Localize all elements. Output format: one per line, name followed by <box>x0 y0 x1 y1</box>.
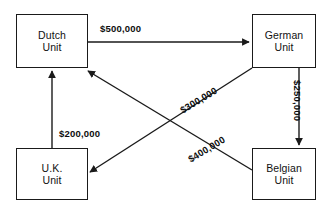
node-dutch-unit[interactable]: Dutch Unit <box>16 14 88 68</box>
node-belgian-label-line2: Unit <box>274 174 293 187</box>
node-dutch-label-line1: Dutch <box>38 29 66 42</box>
node-german-label-line1: German <box>265 29 304 42</box>
edge-label-german-belgian: $250,000 <box>292 80 303 121</box>
node-belgian-label-line1: Belgian <box>266 162 302 175</box>
node-dutch-label-line2: Unit <box>42 41 61 54</box>
flow-diagram: Dutch Unit German Unit U.K. Unit Belgian… <box>0 0 330 213</box>
node-german-label-line2: Unit <box>274 41 293 54</box>
node-uk-label-line2: Unit <box>42 174 61 187</box>
node-uk-label-line1: U.K. <box>42 162 63 175</box>
edge-label-uk-dutch: $200,000 <box>59 128 100 139</box>
node-uk-unit[interactable]: U.K. Unit <box>16 148 88 200</box>
edge-label-dutch-german: $500,000 <box>100 23 141 34</box>
node-german-unit[interactable]: German Unit <box>252 14 316 68</box>
node-belgian-unit[interactable]: Belgian Unit <box>252 148 316 200</box>
edge-german-uk <box>90 68 252 172</box>
